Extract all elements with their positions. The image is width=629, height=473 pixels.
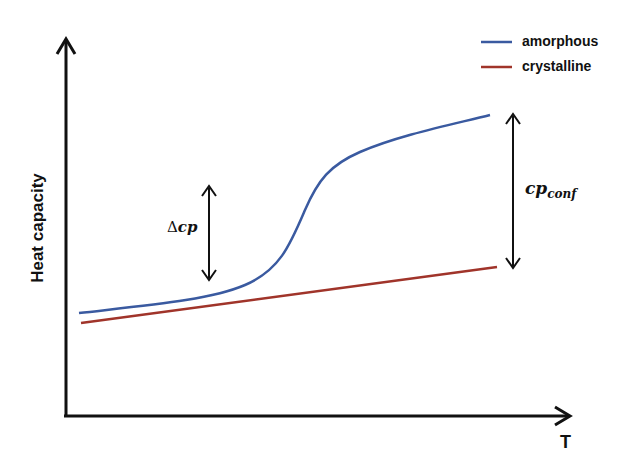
legend-label-crystalline: crystalline [522, 58, 591, 74]
legend-label-amorphous: amorphous [522, 33, 598, 49]
delta-symbol: Δ [167, 218, 178, 236]
cp-conf-base: cp [525, 178, 547, 198]
cp-conf-subscript: conf [547, 187, 576, 201]
cp-conf-label: cpconf [525, 178, 576, 201]
delta-cp-label: Δcp [167, 218, 197, 236]
delta-cp-text: cp [178, 218, 198, 236]
crystalline-curve [81, 267, 497, 323]
y-axis-label: Heat capacity [28, 163, 48, 293]
x-axis-label: T [560, 432, 571, 453]
amorphous-curve [79, 115, 490, 313]
